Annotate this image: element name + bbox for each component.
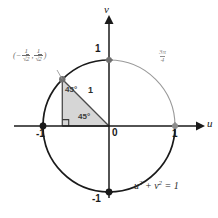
coord-y-radicand: 2 [38,54,42,63]
coord-x-denominator: √2 [22,55,30,63]
point-marker-top [106,57,112,63]
arc-angle-denominator: 4 [160,56,166,64]
equation-plus-sign: + [145,180,152,191]
equation-equals-one: = 1 [165,180,179,191]
angle-label-at-origin: 45° [78,113,90,121]
hypotenuse-length-label: 1 [88,86,93,95]
equation-v-exponent: 2 [159,179,162,186]
coord-comma: , [31,51,33,60]
v-tick-label-minus-one: -1 [92,194,101,204]
equation-u-exponent: 2 [139,179,142,186]
point-coordinate-label: (− 1 √2 , 1 √2 ) [13,49,46,64]
coord-x-radicand: 2 [26,54,30,63]
coord-minus-sign: − [16,51,21,60]
v-tick-label-one: 1 [95,44,101,54]
unit-circle-figure: v u 0 -1 1 1 -1 45° 45° 1 3π 4 (− 1 √2 ,… [0,0,218,218]
angle-label-at-point: 45° [65,86,77,94]
coord-close-paren: ) [44,51,47,60]
unit-circle-light-arc [109,60,175,126]
arc-angle-label: 3π 4 [157,50,168,65]
origin-label: 0 [112,128,118,138]
figure-canvas [0,0,218,218]
v-axis-label: v [104,4,109,15]
u-axis-label: u [207,118,213,129]
u-tick-label-one: 1 [172,129,178,139]
coord-y-denominator: √2 [34,55,42,63]
u-tick-label-minus-one: -1 [36,129,45,139]
arc-angle-numerator: 3π [158,49,167,56]
u-axis-arrowhead [196,122,205,131]
circle-equation-label: u2 + v2 = 1 [134,181,179,191]
point-marker-bottom [106,189,113,196]
v-axis-arrowhead [105,15,114,24]
